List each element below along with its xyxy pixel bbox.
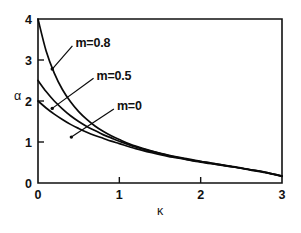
y-tick-label: 1	[25, 136, 32, 150]
chart-canvas: 01234 0123 m=0.8m=0.5m=0 α κ	[0, 0, 301, 233]
y-tick-label: 0	[25, 177, 32, 191]
leader-endpoint-marker	[51, 67, 54, 70]
x-tick-label: 1	[116, 188, 123, 202]
x-tick-label: 0	[35, 188, 42, 202]
y-tick-label: 4	[25, 13, 32, 27]
x-axis-label: κ	[157, 204, 164, 218]
y-tick-label: 2	[25, 95, 32, 109]
x-tick-label: 2	[197, 188, 204, 202]
series-label-m-0-8: m=0.8	[75, 36, 110, 50]
leader-endpoint-marker	[70, 135, 73, 138]
x-tick-label: 3	[279, 188, 286, 202]
series-label-m-0-5: m=0.5	[97, 69, 132, 83]
leader-endpoint-marker	[51, 107, 54, 110]
chart-background	[0, 0, 301, 233]
y-axis-label: α	[14, 89, 21, 103]
figure-container: 01234 0123 m=0.8m=0.5m=0 α κ	[0, 0, 301, 233]
series-label-m-0: m=0	[117, 99, 142, 113]
y-tick-label: 3	[25, 54, 32, 68]
